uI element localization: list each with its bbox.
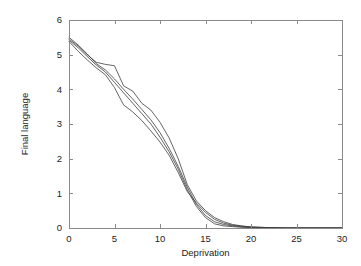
y-tick-label: 6: [57, 14, 62, 25]
y-tick-label: 3: [57, 118, 62, 129]
y-tick-label: 2: [57, 153, 62, 164]
y-axis-title: Final language: [19, 93, 30, 155]
x-tick-label: 5: [112, 233, 117, 244]
plot-background: [69, 20, 342, 228]
y-tick-label: 1: [57, 188, 62, 199]
x-tick-label: 0: [66, 233, 71, 244]
y-tick-labels: 0123456: [57, 14, 62, 233]
line-chart: 051015202530 0123456 Deprivation Final l…: [0, 0, 361, 266]
y-tick-label: 4: [57, 84, 62, 95]
x-tick-label: 20: [246, 233, 257, 244]
y-tick-label: 0: [57, 222, 62, 233]
x-tick-label: 15: [200, 233, 211, 244]
x-axis-title: Deprivation: [181, 247, 229, 258]
y-tick-label: 5: [57, 49, 62, 60]
x-tick-label: 10: [155, 233, 166, 244]
x-tick-label: 30: [337, 233, 348, 244]
chart-figure: 051015202530 0123456 Deprivation Final l…: [0, 0, 361, 266]
x-tick-labels: 051015202530: [66, 233, 347, 244]
x-tick-label: 25: [291, 233, 302, 244]
